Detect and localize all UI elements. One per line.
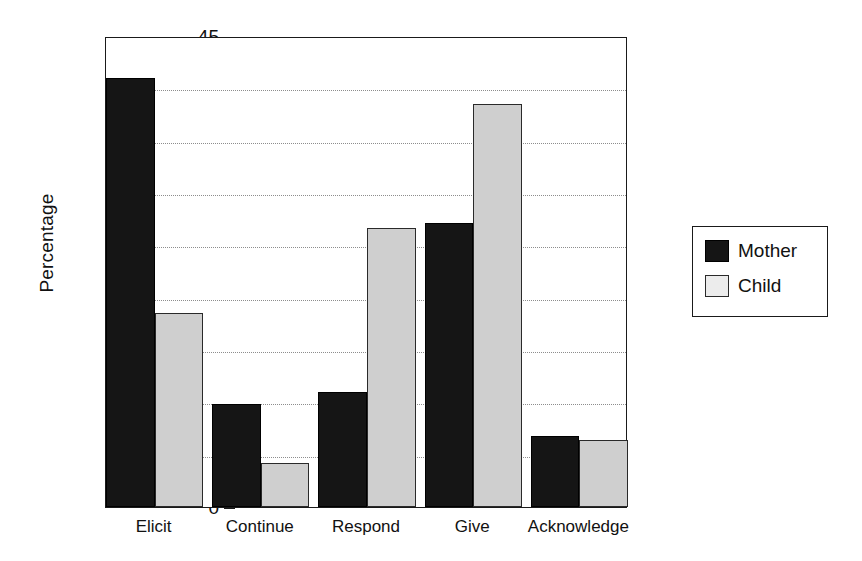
- bar-acknowledge-child: [579, 440, 628, 507]
- bar-elicit-mother: [106, 78, 155, 507]
- bar-give-mother: [425, 223, 474, 507]
- bar-chart-figure: Percentage 051015202530354045 ElicitCont…: [0, 0, 862, 561]
- legend-swatch-mother: [705, 240, 729, 262]
- gridline: [106, 247, 626, 248]
- legend-item-mother: Mother: [705, 240, 797, 262]
- legend-label-mother: Mother: [738, 240, 797, 262]
- x-axis-label-elicit: Elicit: [136, 517, 172, 537]
- bar-respond-mother: [318, 392, 367, 507]
- gridline: [106, 195, 626, 196]
- gridline: [106, 90, 626, 91]
- x-axis-label-respond: Respond: [332, 517, 400, 537]
- y-axis-tick-major: [224, 508, 235, 509]
- legend-label-child: Child: [738, 275, 781, 297]
- gridline: [106, 300, 626, 301]
- plot-area: [105, 37, 627, 508]
- y-axis-title: Percentage: [36, 163, 58, 323]
- bar-elicit-child: [155, 313, 204, 507]
- legend-item-child: Child: [705, 275, 781, 297]
- gridline: [106, 143, 626, 144]
- x-axis-label-give: Give: [455, 517, 490, 537]
- bar-give-child: [473, 104, 522, 507]
- bar-respond-child: [367, 228, 416, 507]
- legend-swatch-child: [705, 275, 729, 297]
- bar-continue-mother: [212, 404, 261, 507]
- plot-inner: [106, 38, 626, 507]
- x-axis-label-acknowledge: Acknowledge: [528, 517, 629, 537]
- bar-acknowledge-mother: [531, 436, 580, 507]
- x-axis-label-continue: Continue: [226, 517, 294, 537]
- legend: MotherChild: [692, 226, 828, 317]
- bar-continue-child: [261, 463, 310, 507]
